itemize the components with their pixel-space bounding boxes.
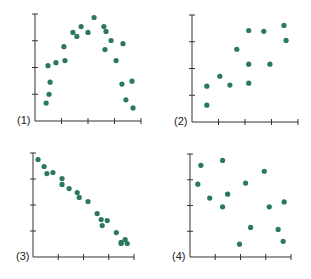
data-point <box>220 204 225 209</box>
data-point <box>220 158 225 163</box>
data-point <box>195 182 200 187</box>
data-point <box>237 242 242 247</box>
data-point <box>282 199 287 204</box>
data-point <box>225 192 230 197</box>
data-point <box>207 195 212 200</box>
scatter-panel-4: (4) <box>0 0 311 279</box>
data-point <box>248 225 253 230</box>
data-point <box>198 163 203 168</box>
panel-label: (4) <box>172 251 185 262</box>
data-point <box>276 227 281 232</box>
data-point <box>267 204 272 209</box>
plot-area <box>0 0 311 279</box>
data-point <box>262 169 267 174</box>
data-point <box>281 239 286 244</box>
data-point <box>243 180 248 185</box>
